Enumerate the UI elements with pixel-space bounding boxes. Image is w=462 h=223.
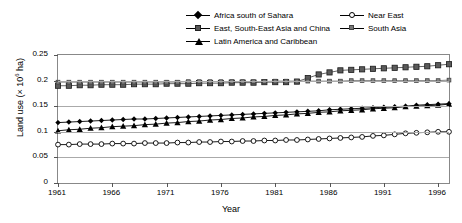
circle-data-point (229, 139, 234, 144)
diamond-data-point (55, 120, 60, 125)
legend-item[interactable]: South Asia (340, 23, 406, 34)
circle-data-point (381, 133, 386, 138)
x-tick-label: 1996 (417, 188, 457, 197)
circle-data-point (327, 136, 332, 141)
legend-label: South Asia (368, 24, 406, 33)
legend-symbol (340, 23, 364, 34)
circle-data-point (132, 141, 137, 146)
x-tick-mark (438, 183, 439, 187)
x-tick-mark (275, 183, 276, 187)
y-tick-mark (54, 55, 58, 56)
diamond-data-point (88, 118, 93, 123)
x-tick-mark (58, 183, 59, 187)
square-data-point (414, 64, 419, 69)
gridline (58, 106, 449, 107)
diamond-marker-icon (194, 11, 202, 19)
x-tick-label: 1961 (37, 188, 77, 197)
legend-marker (349, 12, 355, 18)
legend-column-right: Near EastSouth Asia (340, 10, 406, 36)
y-tick-mark (54, 132, 58, 133)
x-tick-label: 1991 (363, 188, 403, 197)
legend-item[interactable]: Africa south of Sahara (186, 10, 330, 21)
circle-data-point (273, 138, 278, 143)
circle-data-point (371, 133, 376, 138)
circle-data-point (305, 137, 310, 142)
square-data-point (327, 70, 332, 75)
legend-label: Africa south of Sahara (214, 11, 293, 20)
diamond-data-point (120, 117, 125, 122)
circle-data-point (99, 142, 104, 147)
series-east-south-east-asia-and-china (55, 62, 451, 89)
circle-data-point (338, 136, 343, 141)
legend-label: East, South-East Asia and China (214, 24, 330, 33)
diamond-data-point (110, 117, 115, 122)
x-tick-label: 1971 (146, 188, 186, 197)
circle-data-point (262, 138, 267, 143)
circle-data-point (240, 139, 245, 144)
y-tick-label: 0.05 (16, 152, 48, 160)
square-data-point (338, 68, 343, 73)
circle-data-point (360, 135, 365, 140)
circle-data-point (251, 139, 256, 144)
legend-marker (195, 12, 201, 18)
circle-data-point (142, 141, 147, 146)
diamond-data-point (99, 118, 104, 123)
circle-data-point (77, 142, 82, 147)
circle-marker-icon (349, 12, 355, 18)
diamond-data-point (153, 116, 158, 121)
circle-data-point (197, 140, 202, 145)
y-tick-mark (54, 157, 58, 158)
legend-item[interactable]: Near East (340, 10, 406, 21)
diamond-data-point (175, 115, 180, 120)
circle-data-point (219, 139, 224, 144)
diamond-data-point (77, 119, 82, 124)
legend-symbol (340, 10, 364, 21)
square-data-point (316, 72, 321, 77)
square-data-point (349, 67, 354, 72)
square-data-point (425, 64, 430, 69)
gridline (58, 81, 449, 82)
x-tick-label: 1981 (254, 188, 294, 197)
circle-data-point (295, 138, 300, 143)
series-africa-south-of-sahara (55, 101, 451, 125)
x-tick-mark (167, 183, 168, 187)
series-layer (58, 55, 449, 183)
circle-data-point (110, 141, 115, 146)
x-tick-mark (112, 183, 113, 187)
x-tick-mark (384, 183, 385, 187)
circle-data-point (88, 142, 93, 147)
x-axis-ticks: 19611966197119761981198619911996 (0, 188, 462, 200)
y-tick-label: 0.25 (16, 50, 48, 58)
circle-data-point (208, 140, 213, 145)
circle-data-point (175, 140, 180, 145)
diamond-data-point (142, 116, 147, 121)
x-tick-label: 1986 (309, 188, 349, 197)
circle-data-point (284, 138, 289, 143)
square-marker-icon (195, 25, 201, 31)
legend-marker (349, 25, 354, 30)
legend-label: Near East (368, 11, 404, 20)
gridline (58, 132, 449, 133)
plot-wrapper: Land use (× 106 ha) 00.050.10.150.20.25 … (0, 40, 462, 223)
y-tick-label: 0 (16, 178, 48, 186)
y-tick-label: 0.2 (16, 76, 48, 84)
x-tick-label: 1966 (91, 188, 131, 197)
legend-symbol (186, 10, 210, 21)
circle-data-point (316, 137, 321, 142)
x-axis-label: Year (0, 204, 462, 214)
circle-data-point (153, 141, 158, 146)
star-marker-icon (349, 25, 354, 30)
circle-data-point (56, 142, 61, 147)
circle-data-point (186, 140, 191, 145)
diamond-data-point (164, 115, 169, 120)
circle-data-point (121, 141, 126, 146)
x-tick-mark (221, 183, 222, 187)
legend-item[interactable]: East, South-East Asia and China (186, 23, 330, 34)
square-data-point (381, 66, 386, 71)
chart-figure: Africa south of SaharaEast, South-East A… (0, 0, 462, 223)
legend-symbol (186, 23, 210, 34)
y-tick-mark (54, 81, 58, 82)
circle-data-point (66, 142, 71, 147)
square-data-point (360, 67, 365, 72)
square-data-point (403, 65, 408, 70)
